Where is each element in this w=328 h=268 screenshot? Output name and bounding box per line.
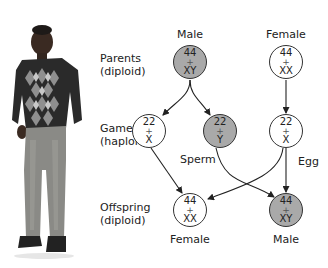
sex-chromosomes: XY: [184, 66, 197, 76]
arrow-sperm-x-to-female: [151, 148, 182, 193]
arrow-sperm-y-to-male: [216, 148, 274, 197]
female-parent-node: 44 + XX: [269, 45, 303, 79]
offspring-female-caption: Female: [166, 233, 214, 246]
male-parent-node: 44 + XY: [173, 45, 207, 79]
sex-chromosomes: X: [146, 135, 153, 145]
arrow-male-to-sperm-y: [190, 80, 210, 115]
sperm-y-node: 22 + Y: [203, 114, 237, 148]
offspring-male-node: 44 + XY: [269, 193, 303, 227]
egg-label: Egg: [298, 155, 319, 168]
sex-chromosomes: Y: [217, 135, 223, 145]
sex-chromosomes: X: [283, 135, 290, 145]
sperm-x-node: 22 + X: [132, 114, 166, 148]
arrow-egg-to-female: [208, 148, 283, 199]
offspring-male-caption: Male: [266, 233, 306, 246]
sperm-label: Sperm: [180, 153, 216, 166]
sex-chromosomes: XX: [183, 214, 197, 224]
sex-chromosomes: XX: [279, 66, 293, 76]
arrow-male-to-sperm-x: [163, 80, 190, 115]
offspring-female-node: 44 + XX: [173, 193, 207, 227]
egg-x-node: 22 + X: [269, 114, 303, 148]
sex-chromosomes: XY: [280, 214, 293, 224]
